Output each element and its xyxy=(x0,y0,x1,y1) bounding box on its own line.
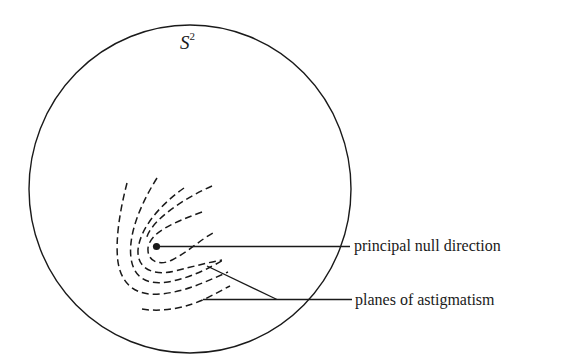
label-planes-of-astigmatism: planes of astigmatism xyxy=(355,292,495,308)
curve-innermost xyxy=(148,212,213,263)
leader-line-astigmatism-diagonal xyxy=(207,266,277,300)
sphere-symbol: S xyxy=(180,32,190,53)
label-principal-null-direction: principal null direction xyxy=(354,238,501,254)
sphere-exponent: 2 xyxy=(190,30,196,42)
diagram-canvas xyxy=(0,0,582,364)
curve-5 xyxy=(117,183,228,294)
sphere-outline xyxy=(29,25,351,353)
figure: S2 principal null direction planes of as… xyxy=(0,0,582,364)
astigmatism-curves xyxy=(117,178,230,310)
sphere-label: S2 xyxy=(180,33,195,52)
curve-2 xyxy=(138,188,222,273)
